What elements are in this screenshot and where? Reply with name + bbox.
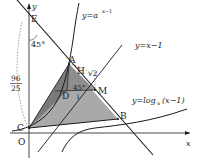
log-curve-base: a: [157, 100, 160, 106]
length-ae-den: 25: [11, 84, 21, 93]
tick-dm-label: 1: [76, 93, 80, 101]
point-m: [94, 89, 96, 91]
diagram-canvas: y x E 45° 96 25 A H √2 45° 1 D M B C O y…: [0, 0, 199, 161]
length-ae-num: 96: [11, 74, 21, 83]
point-a: [68, 63, 70, 65]
log-curve-arg: (x−1): [162, 96, 185, 105]
exp-curve-label: y=a: [81, 11, 98, 20]
angle-d-label: 45°: [73, 84, 85, 92]
length-hm-label: √2: [88, 69, 98, 78]
y-axis-label: y: [31, 2, 37, 11]
point-e-label: E: [31, 14, 38, 24]
x-axis-arrow-icon: [185, 131, 190, 135]
point-d-label: D: [62, 91, 69, 101]
point-m-label: M: [98, 86, 107, 96]
y-axis-arrow-icon: [27, 3, 31, 9]
point-c-label: C: [17, 123, 24, 133]
x-axis-label: x: [186, 139, 191, 148]
line-label: y=x−1: [134, 41, 163, 50]
point-b-label: B: [120, 111, 127, 121]
point-c: [28, 127, 30, 129]
exp-curve-sup: x−1: [102, 8, 112, 14]
log-curve-label: y=log: [131, 96, 156, 105]
origin-label: O: [18, 137, 25, 147]
math-diagram: y x E 45° 96 25 A H √2 45° 1 D M B C O y…: [0, 0, 199, 161]
angle-e-label: 45°: [31, 40, 45, 49]
point-b: [117, 118, 119, 120]
point-h-label: H: [77, 66, 85, 76]
